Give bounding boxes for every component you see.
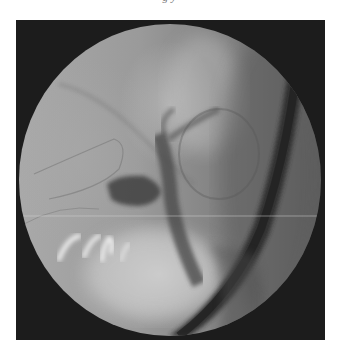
fluoroscopy-image-frame — [16, 20, 325, 340]
cropped-caption-text: g y — [0, 0, 339, 5]
circular-fluoroscopy-field — [19, 24, 321, 336]
fluoroscopy-anatomy — [19, 24, 321, 336]
